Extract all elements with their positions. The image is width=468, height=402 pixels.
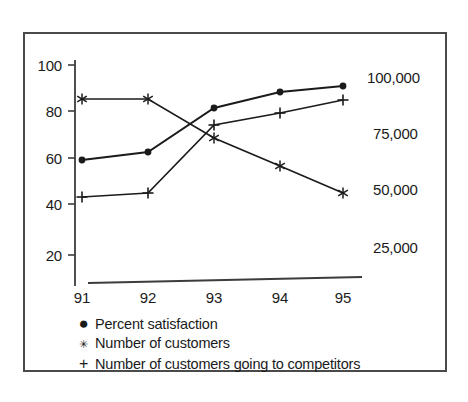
y-axis-label-100: 100 [22,57,62,74]
plus-marker-icon: + [78,355,89,372]
legend-label-percent-satisfaction: Percent satisfaction [95,316,218,333]
x-axis-label-91: 91 [67,289,97,306]
plus-marker [275,108,286,119]
legend-item-percent-satisfaction: ● Percent satisfaction [78,316,360,333]
plus-marker [77,192,88,203]
y-axis-label-20: 20 [22,247,62,264]
star-marker [209,133,219,144]
dot-marker-icon: ● [78,319,89,329]
legend-label-number-of-customers: Number of customers [95,335,230,352]
chart-figure: 100 80 60 40 20 100,000 75,000 50,000 25… [0,0,468,402]
x-axis-label-95: 95 [328,289,358,306]
y-axis-label-40: 40 [22,196,62,213]
x-axis-line [88,277,362,283]
chart-legend: ● Percent satisfaction ✳ Number of custo… [78,316,360,373]
right-axis-label-75000: 75,000 [373,125,418,142]
right-axis-label-100000: 100,000 [367,69,420,86]
x-axis-label-93: 93 [199,289,229,306]
legend-item-customers-to-competitors: + Number of customers going to competito… [78,355,360,373]
star-marker [275,161,285,172]
legend-label-customers-to-competitors: Number of customers going to competitors [95,356,360,373]
star-marker-icon: ✳ [78,336,89,353]
plus-marker [338,95,349,106]
x-axis-label-92: 92 [133,289,163,306]
y-axis-label-60: 60 [22,150,62,167]
right-axis-label-25000: 25,000 [373,239,418,256]
right-axis-label-50000: 50,000 [373,181,418,198]
legend-item-number-of-customers: ✳ Number of customers [78,335,360,353]
series-percent-satisfaction [79,83,347,164]
star-marker [338,188,348,199]
x-axis-label-94: 94 [265,289,295,306]
y-axis-label-80: 80 [22,103,62,120]
